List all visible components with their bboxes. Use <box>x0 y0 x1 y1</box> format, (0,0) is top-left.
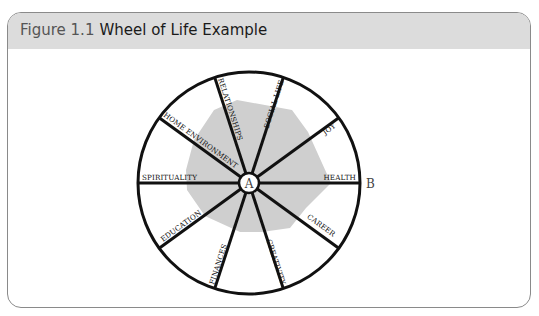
segment-label-joy: JOY <box>320 121 337 137</box>
segment-label-education: EDUCATION <box>159 208 203 244</box>
segment-label-creativity: CREATIVITY <box>265 238 288 286</box>
center-point-label: A <box>244 177 254 191</box>
segment-label-health: HEALTH <box>323 173 356 182</box>
segment-label-spirituality: SPIRITUALITY <box>142 173 197 182</box>
rim-point-label: B <box>366 177 375 191</box>
wheel-of-life-diagram: A B HEALTH CAREER CREATIVITY FINANCES ED… <box>0 0 539 316</box>
